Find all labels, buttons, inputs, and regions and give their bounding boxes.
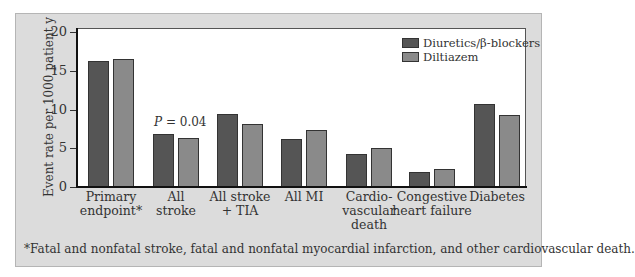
footnote: *Fatal and nonfatal stroke, fatal and no… — [24, 242, 635, 256]
bar-diuretics — [281, 139, 302, 187]
bar-diltiazem — [434, 169, 455, 187]
y-tick-label: 10 — [47, 102, 67, 117]
y-tick-label: 15 — [47, 63, 67, 78]
legend-label: Diltiazem — [423, 50, 479, 64]
bar-diuretics — [153, 134, 174, 187]
legend-item-diltiazem: Diltiazem — [402, 50, 540, 63]
legend: Diuretics/β-blockers Diltiazem — [402, 36, 540, 64]
x-category-label: Diabetes — [457, 190, 537, 204]
bar-diltiazem — [499, 115, 520, 187]
legend-item-diuretics: Diuretics/β-blockers — [402, 36, 540, 49]
legend-swatch-light — [402, 52, 419, 62]
bar-diltiazem — [306, 130, 327, 187]
y-tick-label: 0 — [47, 179, 67, 194]
legend-label: Diuretics/β-blockers — [423, 36, 540, 50]
legend-swatch-dark — [402, 38, 419, 48]
bar-diltiazem — [178, 138, 199, 187]
bar-diuretics — [346, 154, 367, 187]
bar-diuretics — [217, 114, 238, 187]
y-tick-label: 20 — [47, 24, 67, 39]
x-axis-line — [76, 186, 527, 188]
y-tick-label: 5 — [47, 140, 67, 155]
bar-diltiazem — [113, 59, 134, 187]
bar-diltiazem — [242, 124, 263, 187]
y-axis-line — [76, 28, 78, 188]
bar-diuretics — [474, 104, 495, 187]
p-value-annotation: P = 0.04 — [154, 115, 206, 129]
bar-diltiazem — [371, 148, 392, 187]
bar-diuretics — [409, 172, 430, 187]
bar-diuretics — [88, 61, 109, 187]
